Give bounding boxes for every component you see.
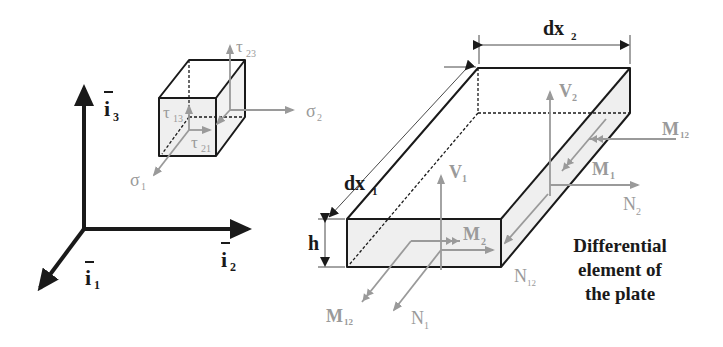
figure-caption: Differential element of the plate [573, 235, 667, 304]
svg-text:σ: σ [306, 101, 316, 121]
svg-text:M: M [326, 306, 343, 326]
svg-text:1: 1 [94, 278, 100, 292]
svg-text:V: V [559, 81, 572, 101]
svg-text:τ: τ [236, 37, 243, 56]
svg-text:2: 2 [571, 30, 577, 42]
svg-text:1: 1 [462, 173, 467, 184]
svg-text:12: 12 [680, 130, 690, 140]
svg-text:i: i [104, 96, 110, 121]
N12-label: N 12 [514, 266, 536, 288]
N2-label: N 2 [623, 194, 641, 217]
M1-label: M 1 [592, 159, 615, 181]
svg-text:i: i [85, 265, 91, 290]
svg-text:12: 12 [344, 317, 354, 327]
svg-text:M: M [463, 224, 480, 244]
dx1-label: dx 1 [344, 172, 378, 197]
svg-text:N: N [623, 194, 636, 214]
svg-text:12: 12 [527, 278, 536, 288]
sigma1-label: σ 1 [130, 170, 146, 192]
svg-text:τ: τ [191, 133, 198, 152]
svg-text:σ: σ [130, 170, 140, 190]
svg-text:N: N [514, 266, 527, 286]
svg-text:2: 2 [481, 236, 486, 247]
svg-text:τ: τ [163, 103, 170, 122]
svg-text:13: 13 [173, 113, 183, 124]
tau23-label: τ 23 [236, 37, 256, 59]
dimension-h [318, 219, 345, 267]
axis-i1-label: i 1 [85, 262, 100, 292]
svg-text:N: N [411, 308, 424, 328]
h-label: h [308, 232, 319, 254]
N1-label: N 1 [411, 308, 429, 331]
axis-i2-label: i 2 [221, 243, 236, 274]
svg-text:23: 23 [246, 48, 256, 59]
svg-text:1: 1 [610, 170, 615, 181]
svg-text:V: V [449, 162, 462, 182]
M12-front-label: M 12 [326, 306, 354, 327]
axis-i3-label: i 3 [104, 92, 119, 124]
dimension-dx2 [479, 35, 630, 64]
M12-right-label: M 12 [662, 119, 690, 140]
sigma2-label: σ 2 [306, 101, 322, 123]
svg-text:21: 21 [201, 143, 211, 154]
dx2-label: dx 2 [543, 17, 577, 42]
svg-text:dx: dx [344, 172, 365, 194]
svg-text:1: 1 [424, 320, 429, 331]
svg-text:2: 2 [636, 206, 641, 217]
plate-diagram: i 3 i 2 i 1 [0, 0, 723, 347]
svg-text:2: 2 [230, 260, 236, 274]
svg-text:2: 2 [572, 92, 577, 103]
stress-cube: τ 23 σ 2 τ 13 τ 21 σ 1 [130, 37, 322, 192]
svg-text:3: 3 [113, 110, 119, 124]
V2-label: V 2 [559, 81, 577, 103]
svg-text:M: M [662, 119, 679, 139]
axis-i1-arrow [40, 229, 84, 288]
svg-text:1: 1 [141, 181, 146, 192]
svg-text:2: 2 [317, 112, 322, 123]
caption-line-3: the plate [585, 283, 655, 304]
svg-text:1: 1 [372, 185, 378, 197]
caption-line-1: Differential [573, 235, 667, 256]
svg-text:M: M [592, 159, 609, 179]
V1-label: V 1 [449, 162, 467, 184]
caption-line-2: element of [578, 259, 663, 280]
svg-text:i: i [221, 247, 227, 272]
svg-text:dx: dx [543, 17, 564, 39]
